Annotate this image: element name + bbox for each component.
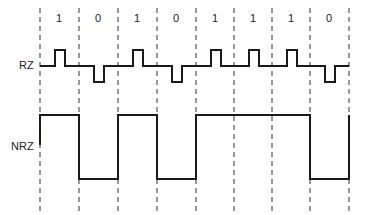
bit-label: 1 bbox=[243, 12, 263, 24]
rz-label: RZ bbox=[19, 59, 34, 71]
bit-label: 0 bbox=[166, 12, 186, 24]
rz-waveform bbox=[40, 50, 349, 82]
nrz-waveform bbox=[40, 115, 349, 179]
nrz-label: NRZ bbox=[11, 140, 34, 152]
encoding-diagram: 1 0 1 0 1 1 1 0 RZ NRZ bbox=[0, 0, 368, 215]
bit-boundaries bbox=[40, 8, 349, 212]
bit-label: 1 bbox=[127, 12, 147, 24]
bit-label: 0 bbox=[319, 12, 339, 24]
waveform-canvas bbox=[0, 0, 368, 215]
bit-label: 1 bbox=[49, 12, 69, 24]
bit-label: 0 bbox=[88, 12, 108, 24]
bit-label: 1 bbox=[281, 12, 301, 24]
bit-label: 1 bbox=[205, 12, 225, 24]
